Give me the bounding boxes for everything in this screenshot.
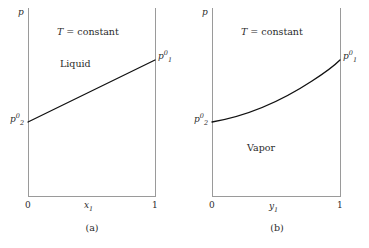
panel-a-xtick-1: 1 [152,201,158,210]
panel-b-left-endpoint-sub: 2 [204,119,208,127]
panel-a-left-endpoint-label: p02 [10,115,24,124]
panel-a-right-endpoint-label: p01 [158,52,172,61]
panel-b-dew-point-curve [212,60,340,122]
panel-b-xtick-0: 0 [209,201,215,210]
panel-a-right-endpoint-sub: 1 [168,56,172,64]
panel-a-xtick-0: 0 [25,201,31,210]
panel-b-xtick-1: 1 [337,201,343,210]
panel-b: p T = constant Vapor p02 p01 0 1 y1 (b) [185,0,369,248]
panel-a: p T = constant Liquid p02 p01 0 1 x1 (a) [0,0,184,248]
panel-a-bubble-point-line [28,60,155,122]
panel-a-x-axis-label-sub: 1 [89,205,93,213]
figure-vle-phase-diagrams: p T = constant Liquid p02 p01 0 1 x1 (a) [0,0,369,248]
panel-b-x-axis-label: y1 [269,202,278,211]
panel-b-right-endpoint-label: p01 [343,52,357,61]
panel-b-right-endpoint-sub: 1 [353,56,357,64]
panel-b-left-endpoint-label: p02 [194,115,208,124]
panel-b-x-axis-label-sub: 1 [274,206,278,214]
panel-a-caption: (a) [0,222,184,233]
panel-a-x-axis-label: x1 [84,201,93,210]
panel-a-left-endpoint-sub: 2 [20,119,24,127]
panel-b-caption: (b) [185,222,369,233]
